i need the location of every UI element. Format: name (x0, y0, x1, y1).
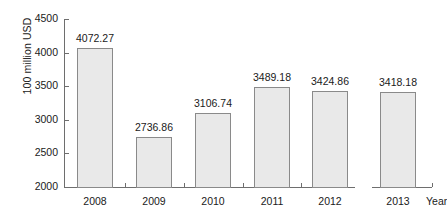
bar-value-label: 3424.86 (300, 75, 360, 87)
x-axis-tick-label: 2013 (373, 195, 423, 207)
y-axis-tick-label: 2000 (24, 180, 58, 192)
bar-value-label: 3489.18 (242, 71, 302, 83)
y-axis-tick (65, 53, 69, 54)
bar-value-label: 4072.27 (65, 32, 125, 44)
x-axis-tick (432, 183, 433, 187)
bar (254, 87, 290, 188)
x-axis-tick-label: 2012 (305, 195, 355, 207)
bar-value-label: 3418.18 (368, 76, 428, 88)
y-axis-tick-label: 4000 (24, 46, 58, 58)
bar-value-label: 2736.86 (124, 121, 184, 133)
x-axis-tick (184, 183, 185, 187)
bar (77, 48, 113, 188)
bar (380, 92, 416, 188)
x-axis-tick-label: 2008 (70, 195, 120, 207)
y-axis-spine (64, 19, 65, 188)
y-axis-tick (65, 19, 69, 20)
x-axis-tick (243, 183, 244, 187)
x-axis-tick (125, 183, 126, 187)
y-axis-tick (65, 153, 69, 154)
y-axis-tick-label: 3500 (24, 79, 58, 91)
x-axis-tick-label: 2009 (129, 195, 179, 207)
y-axis-tick (65, 86, 69, 87)
x-axis-tick-label: 2011 (247, 195, 297, 207)
x-axis-tick-label: 2010 (188, 195, 238, 207)
bar-value-label: 3106.74 (183, 97, 243, 109)
bar (195, 113, 231, 188)
x-axis-title: Year (426, 195, 447, 207)
y-axis-tick (65, 120, 69, 121)
bar (312, 91, 348, 188)
y-axis-tick-label: 4500 (24, 12, 58, 24)
y-axis-tick-label: 3000 (24, 113, 58, 125)
x-axis-tick (301, 183, 302, 187)
bar (136, 137, 172, 188)
y-axis-tick-label: 2500 (24, 146, 58, 158)
